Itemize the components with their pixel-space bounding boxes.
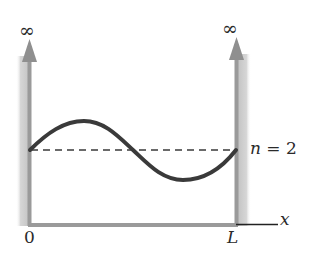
right-wall-arrow-icon [229,37,244,60]
quantum-number-label: n = 2 [250,140,297,157]
diagram-canvas [0,0,319,256]
right-wall-infinity-label: ∞ [222,19,238,38]
quantum-number-value: = 2 [266,138,296,158]
left-wall-shading [16,56,29,226]
quantum-number-variable: n [250,138,261,158]
origin-label: 0 [24,229,35,246]
left-wall-arrow-icon [22,39,37,62]
infinite-square-well-diagram: ∞ ∞ 0 L x n = 2 [0,0,319,256]
x-axis-label: x [280,211,290,228]
left-wall-infinity-label: ∞ [19,21,35,40]
well-width-label: L [227,229,238,246]
